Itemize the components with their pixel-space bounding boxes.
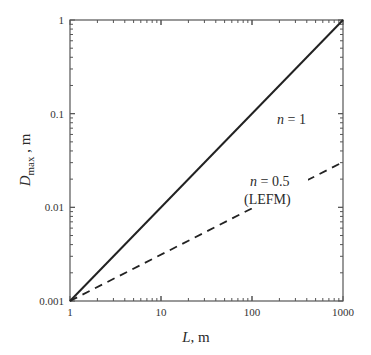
annotation-n1: n = 1 xyxy=(277,112,306,127)
series-n1-line xyxy=(70,20,343,301)
x-tick-1000: 1000 xyxy=(332,306,355,318)
log-log-chart: 1 10 100 1000 1 0.1 0.01 0.001 n = 1 n =… xyxy=(0,0,371,355)
x-tick-1: 1 xyxy=(67,306,73,318)
y-tick-0.1: 0.1 xyxy=(50,108,64,120)
svg-text:Dmax , m: Dmax , m xyxy=(17,133,36,187)
annotation-lefm: (LEFM) xyxy=(244,192,291,208)
y-tick-1: 1 xyxy=(59,14,65,26)
x-tick-100: 100 xyxy=(244,306,261,318)
y-tick-0.01: 0.01 xyxy=(45,201,64,213)
y-tick-0.001: 0.001 xyxy=(39,295,64,307)
annotation-n05: n = 0.5 xyxy=(250,174,289,189)
y-axis-label: Dmax , m xyxy=(17,133,36,187)
x-axis-label: L, m xyxy=(181,329,210,345)
x-tick-10: 10 xyxy=(156,306,168,318)
